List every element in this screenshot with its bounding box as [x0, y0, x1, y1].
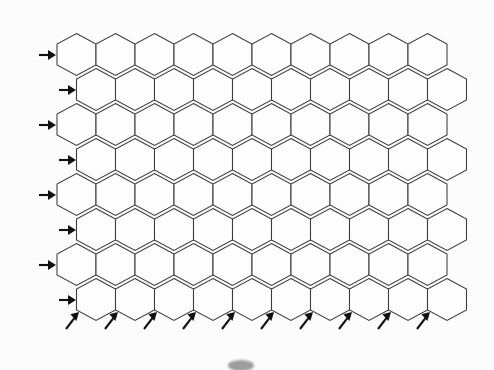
- column-arrow-I-icon: [368, 308, 397, 335]
- hex-cell[interactable]: [369, 174, 408, 216]
- hex-cell[interactable]: [291, 244, 330, 286]
- hex-cell[interactable]: [135, 104, 174, 146]
- column-arrow-H-icon: [329, 308, 358, 335]
- hex-cell[interactable]: [116, 69, 155, 111]
- hex-cell[interactable]: [252, 174, 291, 216]
- hex-cell[interactable]: [330, 34, 369, 76]
- hex-cell[interactable]: [135, 244, 174, 286]
- row-arrow-5-icon: [59, 152, 79, 168]
- hex-cell[interactable]: [272, 69, 311, 111]
- hex-cell[interactable]: [174, 174, 213, 216]
- hex-cell[interactable]: [233, 69, 272, 111]
- hex-cell[interactable]: [135, 174, 174, 216]
- bottom-artifact: [228, 360, 254, 370]
- hex-cell[interactable]: [408, 104, 447, 146]
- hex-cell[interactable]: [408, 244, 447, 286]
- hex-cell[interactable]: [77, 209, 116, 251]
- hex-cell[interactable]: [174, 34, 213, 76]
- hex-cell[interactable]: [77, 139, 116, 181]
- hex-cell[interactable]: [233, 209, 272, 251]
- hex-cell[interactable]: [57, 104, 96, 146]
- hex-cell[interactable]: [135, 34, 174, 76]
- hex-cell[interactable]: [408, 34, 447, 76]
- hex-cell[interactable]: [213, 244, 252, 286]
- column-arrow-F-icon: [251, 308, 280, 335]
- hex-cell[interactable]: [291, 104, 330, 146]
- hex-cell[interactable]: [369, 104, 408, 146]
- hex-cell[interactable]: [389, 139, 428, 181]
- hex-cell[interactable]: [428, 69, 467, 111]
- hex-cell[interactable]: [96, 104, 135, 146]
- hex-cell[interactable]: [213, 34, 252, 76]
- hex-cell[interactable]: [96, 244, 135, 286]
- hex-cell[interactable]: [369, 34, 408, 76]
- hex-cell[interactable]: [408, 174, 447, 216]
- hex-cell[interactable]: [194, 139, 233, 181]
- hex-cell[interactable]: [155, 69, 194, 111]
- hex-cell[interactable]: [116, 209, 155, 251]
- hex-cell[interactable]: [272, 209, 311, 251]
- hex-cell[interactable]: [213, 104, 252, 146]
- hex-cell[interactable]: [96, 34, 135, 76]
- column-arrow-C-icon: [134, 308, 163, 335]
- hex-cell[interactable]: [330, 244, 369, 286]
- row-arrow-2-icon: [39, 257, 59, 273]
- column-arrow-E-icon: [212, 308, 241, 335]
- hex-cell[interactable]: [389, 69, 428, 111]
- hex-cell[interactable]: [57, 174, 96, 216]
- hex-cell[interactable]: [311, 209, 350, 251]
- row-arrow-3-icon: [59, 222, 79, 238]
- hex-cell[interactable]: [369, 244, 408, 286]
- hex-cell[interactable]: [350, 139, 389, 181]
- hex-cell[interactable]: [252, 34, 291, 76]
- hex-cell[interactable]: [252, 104, 291, 146]
- hex-cell[interactable]: [57, 34, 96, 76]
- row-arrow-1-icon: [59, 292, 79, 308]
- hex-cell[interactable]: [174, 244, 213, 286]
- row-arrow-6-icon: [39, 117, 59, 133]
- hex-cell[interactable]: [194, 209, 233, 251]
- hex-cell[interactable]: [57, 244, 96, 286]
- row-arrow-4-icon: [39, 187, 59, 203]
- hex-cell[interactable]: [311, 139, 350, 181]
- hex-cell[interactable]: [350, 209, 389, 251]
- hex-cell[interactable]: [350, 69, 389, 111]
- hex-cell[interactable]: [155, 209, 194, 251]
- hex-cell[interactable]: [330, 174, 369, 216]
- hex-cell[interactable]: [155, 139, 194, 181]
- hex-cell[interactable]: [96, 174, 135, 216]
- column-arrow-A-icon: [56, 308, 85, 335]
- hex-cell[interactable]: [116, 139, 155, 181]
- hex-cell[interactable]: [252, 244, 291, 286]
- hex-cell[interactable]: [194, 69, 233, 111]
- hex-cell[interactable]: [311, 69, 350, 111]
- column-arrow-B-icon: [95, 308, 124, 335]
- column-arrow-J-icon: [407, 308, 436, 335]
- hex-cell[interactable]: [428, 209, 467, 251]
- hex-cell[interactable]: [272, 139, 311, 181]
- column-arrow-G-icon: [290, 308, 319, 335]
- hex-cell[interactable]: [213, 174, 252, 216]
- hex-cell[interactable]: [428, 139, 467, 181]
- row-arrow-7-icon: [59, 82, 79, 98]
- hex-cell[interactable]: [174, 104, 213, 146]
- hex-grid-diagram: [0, 0, 494, 370]
- row-arrow-8-icon: [39, 47, 59, 63]
- hex-cell[interactable]: [389, 209, 428, 251]
- column-arrow-D-icon: [173, 308, 202, 335]
- hex-cell[interactable]: [77, 69, 116, 111]
- hex-cell[interactable]: [233, 139, 272, 181]
- hex-cell[interactable]: [291, 174, 330, 216]
- hex-cell[interactable]: [330, 104, 369, 146]
- hex-cell[interactable]: [291, 34, 330, 76]
